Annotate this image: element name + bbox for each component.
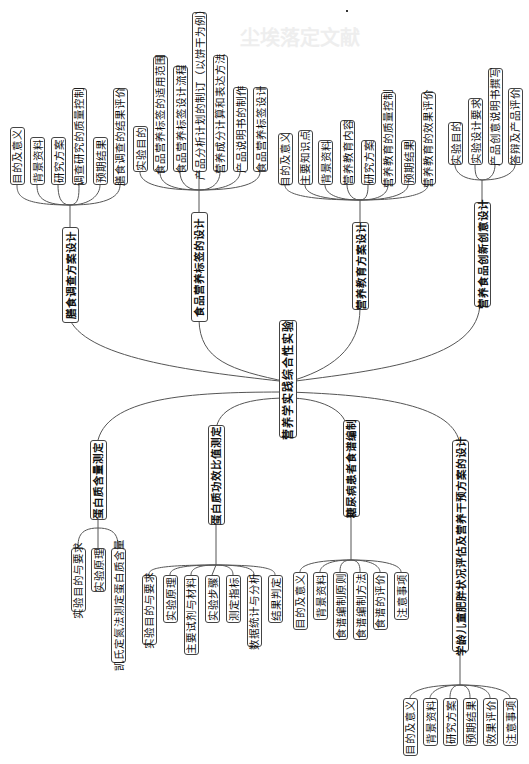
leaf-node[interactable]: 实验目的 — [133, 126, 148, 172]
leaf-node[interactable]: 营养教育内容 — [340, 120, 355, 185]
leaf-node[interactable]: 主要试剂与材料 — [184, 575, 199, 655]
leaf-node[interactable]: 实验原理 — [91, 548, 106, 592]
leaf-node[interactable]: 测定指标 — [226, 575, 241, 623]
leaf-node[interactable]: 食谱编制原则 — [333, 572, 348, 640]
leaf-node[interactable]: 研究方案 — [51, 137, 66, 185]
leaf-node[interactable]: 目的及意义 — [278, 133, 293, 185]
leaf-node[interactable]: 食谱编制方法 — [353, 572, 368, 640]
leaf-node[interactable]: 目的及意义 — [293, 572, 308, 630]
leaf-node[interactable]: 凯氏定氮法测定蛋白质含量 — [111, 548, 126, 663]
leaf-node[interactable]: 营养成分计算和表达方法 — [213, 55, 228, 172]
leaf-node[interactable]: 产品分析计划的制订（以饼干为例） — [192, 12, 207, 172]
leaf-node[interactable]: 效果评价 — [483, 698, 498, 746]
mind-map-canvas: 尘埃落定文献 — [0, 0, 529, 764]
leaf-node[interactable]: 产品创意说明书撰写 — [488, 68, 503, 165]
leaf-node[interactable]: 目的及意义 — [10, 127, 25, 185]
branch-node-diet-survey[interactable]: 膳食调查方案设计 — [62, 227, 79, 323]
central-node[interactable]: 营养学实践综合性实验 — [279, 320, 297, 438]
leaf-node[interactable]: 产品说明书的制作 — [233, 87, 248, 172]
leaf-node[interactable]: 实验步骤 — [205, 575, 220, 623]
leaf-node[interactable]: 预期结果 — [93, 137, 108, 185]
branch-node-child-obesity-intervention[interactable]: 学龄儿童肥胖状况评估及营养干预方案的设计 — [452, 440, 469, 652]
leaf-node[interactable]: 主要知识点 — [298, 130, 313, 185]
leaf-node[interactable]: 研究方案 — [361, 140, 376, 185]
leaf-node[interactable]: 膳食调查的结果评价 — [113, 88, 128, 185]
leaf-node[interactable]: 实验原理 — [163, 575, 178, 623]
branch-node-protein-content[interactable]: 蛋白质含量测定 — [90, 440, 107, 520]
leaf-node[interactable]: 背景资料 — [30, 137, 45, 185]
leaf-node[interactable]: 答辩及产品评价 — [508, 88, 523, 165]
leaf-node[interactable]: 实验目的与要求 — [142, 575, 157, 645]
leaf-node[interactable]: 预期结果 — [463, 698, 478, 746]
branch-node-protein-efficiency[interactable]: 蛋白质功效比值测定 — [208, 425, 225, 525]
leaf-node[interactable]: 调查研究的质量控制 — [72, 88, 87, 185]
leaf-node[interactable]: 营养教育的效果评价 — [421, 92, 436, 185]
leaf-node[interactable]: 营养教育的质量控制 — [381, 92, 396, 185]
branch-node-nutrition-label[interactable]: 食品营养标签的设计 — [191, 212, 208, 322]
leaf-node[interactable]: 注意事项 — [394, 572, 409, 620]
leaf-node[interactable]: 注意事项 — [503, 698, 518, 746]
leaf-node[interactable]: 食品营养标签设计流程 — [173, 66, 188, 172]
leaf-node[interactable]: 实验目的 — [448, 122, 463, 165]
leaf-node[interactable]: 实验目的与要求 — [71, 548, 86, 612]
leaf-node[interactable]: 预期结果 — [401, 140, 416, 185]
leaf-node[interactable]: 背景资料 — [318, 140, 333, 185]
leaf-node[interactable]: 研究方案 — [443, 698, 458, 746]
branch-node-food-innovation[interactable]: 营养食品创新创意设计 — [474, 202, 491, 307]
leaf-node[interactable]: 数据统计与分析 — [247, 575, 262, 647]
branch-node-nutrition-education[interactable]: 营养教育方案设计 — [352, 222, 369, 310]
leaf-node[interactable]: 结果判定 — [268, 575, 283, 623]
leaf-node[interactable]: 背景资料 — [313, 572, 328, 620]
branch-node-diabetes-menu[interactable]: 糖尿病患者食谱编制 — [343, 420, 360, 517]
leaf-node[interactable]: 背景资料 — [423, 698, 438, 746]
leaf-node[interactable]: 食谱的评价 — [373, 572, 388, 630]
central-node-label: 营养学实践综合性实验 — [283, 319, 294, 439]
leaf-node[interactable]: 目的及意义 — [403, 698, 418, 756]
leaf-node[interactable]: 食品营养标签的适用范围 — [153, 56, 168, 172]
leaf-node[interactable]: 食品营养标签设计 — [253, 87, 268, 172]
leaf-node[interactable]: 实验设计要求 — [468, 98, 483, 165]
